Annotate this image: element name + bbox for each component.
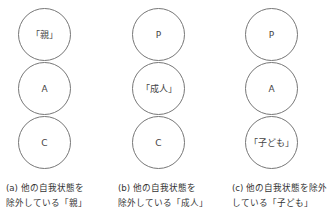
ego-state-circle-adult: A bbox=[18, 62, 71, 115]
caption-line: (b) 他の自我状態を bbox=[118, 181, 208, 196]
caption-b: (b) 他の自我状態を 除外している「成人」 bbox=[118, 181, 208, 211]
ego-state-circle-child: C bbox=[18, 116, 71, 169]
caption-line: (c) 他の自我状態を除外 bbox=[232, 181, 327, 196]
caption-c: (c) 他の自我状態を除外 している「子ども」 bbox=[232, 181, 327, 211]
ego-state-circle-parent: P bbox=[132, 8, 185, 61]
circle-label: C bbox=[155, 138, 161, 148]
circle-label: 「成人」 bbox=[141, 82, 177, 95]
circle-label: C bbox=[41, 138, 47, 148]
circle-label: A bbox=[268, 84, 274, 94]
panel-c: P A 「子ども」 (c) 他の自我状態を除外 している「子ども」 bbox=[224, 0, 336, 217]
caption-line: している「子ども」 bbox=[232, 196, 327, 211]
circle-label: P bbox=[156, 30, 161, 40]
circle-label: 「子ども」 bbox=[249, 136, 294, 149]
circle-label: A bbox=[41, 84, 47, 94]
ego-state-circle-child: C bbox=[132, 116, 185, 169]
circle-label: P bbox=[269, 30, 274, 40]
panel-b: P 「成人」 C (b) 他の自我状態を 除外している「成人」 bbox=[112, 0, 224, 217]
ego-state-circle-adult: A bbox=[245, 62, 298, 115]
caption-a: (a) 他の自我状態を 除外している「親」 bbox=[6, 181, 87, 211]
panel-a: 「親」 A C (a) 他の自我状態を 除外している「親」 bbox=[0, 0, 112, 217]
caption-line: 除外している「親」 bbox=[6, 196, 87, 211]
ego-state-circle-adult-excluding: 「成人」 bbox=[132, 62, 185, 115]
caption-line: (a) 他の自我状態を bbox=[6, 181, 87, 196]
ego-state-circle-parent-excluding: 「親」 bbox=[18, 8, 71, 61]
ego-state-circle-child-excluding: 「子ども」 bbox=[245, 116, 298, 169]
circle-label: 「親」 bbox=[31, 28, 58, 41]
caption-line: 除外している「成人」 bbox=[118, 196, 208, 211]
ego-state-circle-parent: P bbox=[245, 8, 298, 61]
